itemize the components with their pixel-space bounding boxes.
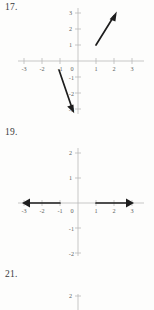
x-axis-tick-labels: -3 -2 -1 0 1 2 3 bbox=[21, 65, 133, 72]
x-axis-tick-labels: -3 -2 -1 0 1 2 3 bbox=[21, 207, 133, 214]
svg-text:-3: -3 bbox=[21, 65, 26, 72]
svg-text:-2: -2 bbox=[69, 90, 74, 97]
y-axis-tick-label-2: 2 bbox=[69, 292, 72, 299]
svg-text:2: 2 bbox=[69, 25, 72, 32]
svg-text:-1: -1 bbox=[57, 207, 62, 214]
svg-text:-2: -2 bbox=[69, 250, 74, 257]
problem-number-21: 21. bbox=[5, 270, 17, 280]
svg-text:-1: -1 bbox=[69, 74, 74, 81]
svg-text:-3: -3 bbox=[21, 207, 26, 214]
svg-text:-2: -2 bbox=[39, 65, 44, 72]
graph-problem-17: -3 -2 -1 0 1 2 3 3 2 1 bbox=[18, 8, 144, 116]
svg-text:-1: -1 bbox=[69, 225, 74, 232]
svg-text:0: 0 bbox=[70, 207, 73, 214]
svg-text:2: 2 bbox=[112, 207, 115, 214]
svg-text:3: 3 bbox=[69, 9, 72, 16]
svg-text:2: 2 bbox=[69, 149, 72, 156]
graph-problem-19: -3 -2 -1 0 1 2 3 2 1 -1 -2 bbox=[18, 148, 144, 256]
svg-text:0: 0 bbox=[70, 65, 73, 72]
svg-text:3: 3 bbox=[130, 207, 133, 214]
svg-text:1: 1 bbox=[69, 41, 72, 48]
vector-arrow-up-right bbox=[96, 12, 117, 45]
problem-number-19: 19. bbox=[5, 128, 17, 138]
svg-text:1: 1 bbox=[94, 207, 97, 214]
coordinate-plane-19: -3 -2 -1 0 1 2 3 2 1 -1 -2 bbox=[18, 148, 144, 256]
graph-problem-21: 2 bbox=[18, 292, 144, 310]
svg-text:-2: -2 bbox=[39, 207, 44, 214]
problem-number-17: 17. bbox=[5, 3, 17, 13]
coordinate-plane-21: 2 bbox=[18, 292, 144, 310]
svg-text:3: 3 bbox=[130, 65, 133, 72]
svg-text:1: 1 bbox=[69, 174, 72, 181]
svg-text:2: 2 bbox=[112, 65, 115, 72]
svg-text:1: 1 bbox=[94, 65, 97, 72]
textbook-page: 17. -3 -2 -1 0 1 2 bbox=[0, 0, 154, 310]
coordinate-plane-17: -3 -2 -1 0 1 2 3 3 2 1 bbox=[18, 8, 144, 116]
